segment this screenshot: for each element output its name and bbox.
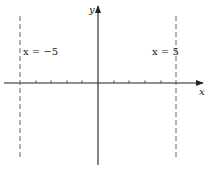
label-x-5: x = 5 bbox=[152, 46, 179, 57]
coordinate-diagram: y x x = −5 x = 5 bbox=[0, 0, 208, 171]
y-axis-label: y bbox=[88, 4, 95, 15]
x-axis-label: x bbox=[199, 86, 205, 97]
label-x-minus-5: x = −5 bbox=[23, 46, 58, 57]
